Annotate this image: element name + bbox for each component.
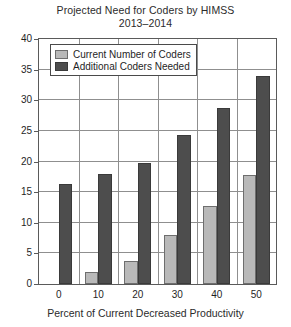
legend-swatch-light-icon <box>55 50 68 59</box>
x-axis-tick-label: 20 <box>121 290 155 300</box>
legend-item-current-number-of-coders: Current Number of Coders <box>55 48 191 60</box>
x-axis-tick-label: 40 <box>200 290 234 300</box>
y-axis-tick-label: 30 <box>2 95 32 105</box>
bar <box>124 261 138 284</box>
bar <box>243 175 257 284</box>
y-axis-tick-label: 0 <box>2 279 32 289</box>
x-axis-tick-label: 30 <box>160 290 194 300</box>
legend-label: Additional Coders Needed <box>73 61 190 72</box>
y-axis-tick-label: 15 <box>2 187 32 197</box>
bar-chart: Projected Need for Coders by HIMSS 2013–… <box>0 0 291 327</box>
bar <box>164 235 178 284</box>
chart-title-line-1: Projected Need for Coders by HIMSS <box>57 4 235 16</box>
chart-title-line-2: 2013–2014 <box>0 17 291 30</box>
bar <box>203 206 217 284</box>
legend-swatch-dark-icon <box>55 62 68 71</box>
chart-title: Projected Need for Coders by HIMSS 2013–… <box>0 4 291 30</box>
x-axis-tick-label: 0 <box>42 290 76 300</box>
chart-legend: Current Number of Coders Additional Code… <box>50 44 197 76</box>
bar <box>256 76 270 284</box>
legend-item-additional-coders-needed: Additional Coders Needed <box>55 60 191 72</box>
x-axis-tick-label: 10 <box>81 290 115 300</box>
x-axis-title: Percent of Current Decreased Productivit… <box>0 307 291 319</box>
bar <box>59 184 73 284</box>
y-axis-tick-label: 25 <box>2 126 32 136</box>
bar <box>85 272 99 284</box>
bar <box>217 108 231 284</box>
y-axis-tick-label: 20 <box>2 157 32 167</box>
bar <box>177 135 191 284</box>
bar <box>138 163 152 284</box>
y-axis-tick-label: 10 <box>2 218 32 228</box>
y-axis-tick-label: 40 <box>2 34 32 44</box>
y-axis-tick-label: 5 <box>2 248 32 258</box>
legend-label: Current Number of Coders <box>73 49 191 60</box>
y-axis-tick-label: 35 <box>2 65 32 75</box>
bar <box>98 174 112 284</box>
x-axis-tick-label: 50 <box>239 290 273 300</box>
gridline-vertical <box>197 39 198 284</box>
gridline-vertical <box>237 39 238 284</box>
